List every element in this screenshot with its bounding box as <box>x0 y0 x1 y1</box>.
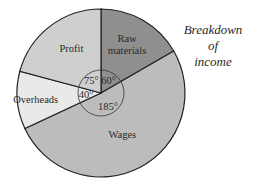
chart-title: Breakdown of income <box>172 22 254 70</box>
slice-label-overheads: Overheads <box>13 94 58 105</box>
angle-label-wages: 185° <box>98 101 118 112</box>
chart-title-line-1: Breakdown <box>172 22 254 38</box>
chart-title-line-3: income <box>172 54 254 70</box>
slice-label-wages: Wages <box>108 129 136 140</box>
slice-label-profit: Profit <box>59 43 83 54</box>
chart-title-line-2: of <box>172 38 254 54</box>
angle-label-profit: 75° <box>84 75 99 86</box>
angle-label-overheads: 40° <box>79 89 94 100</box>
angle-label-raw-materials: 60° <box>101 75 116 86</box>
